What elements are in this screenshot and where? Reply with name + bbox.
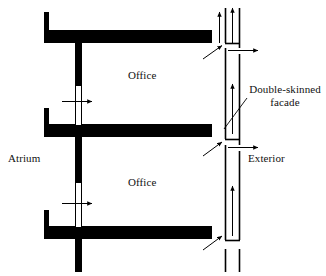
- architectural-section-svg: [0, 0, 326, 276]
- label-double-skinned-facade: Double-skinnedfacade: [246, 83, 324, 109]
- inlet-arrows-group: [203, 46, 222, 251]
- leader-lines-group: [224, 98, 247, 129]
- diagram-canvas: Atrium Office Office Exterior Double-ski…: [0, 0, 326, 276]
- lower-left-stub: [44, 210, 49, 227]
- inlet-arrow-upper: [203, 46, 222, 60]
- lower-floor-slab: [44, 226, 212, 239]
- lower-atrium-opening: [75, 183, 82, 227]
- upper-floor-slab: [44, 30, 212, 43]
- label-exterior: Exterior: [248, 152, 285, 165]
- floor-slabs-group: [44, 30, 212, 239]
- lower-atrium-wall: [75, 136, 82, 183]
- upper-left-stub: [44, 12, 49, 31]
- inlet-arrow-mid: [203, 142, 222, 156]
- label-facade-line2: facade: [246, 96, 324, 109]
- label-office-upper: Office: [128, 69, 157, 82]
- middle-floor-slab: [44, 124, 212, 137]
- label-atrium: Atrium: [8, 152, 40, 165]
- label-office-lower: Office: [128, 176, 157, 189]
- upper-atrium-wall: [75, 42, 82, 86]
- bottom-atrium-wall: [75, 238, 82, 272]
- upper-atrium-opening: [75, 86, 82, 125]
- left-edge-stubs-group: [44, 12, 49, 227]
- middle-left-stub: [44, 108, 49, 125]
- facade-leader-line: [224, 98, 247, 129]
- label-facade-line1: Double-skinned: [249, 83, 321, 95]
